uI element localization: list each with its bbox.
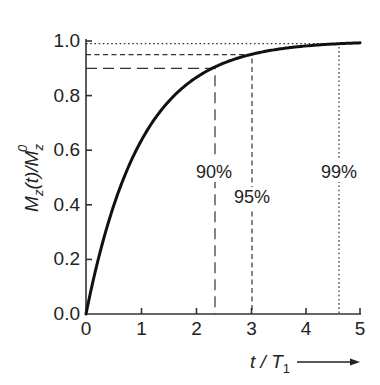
x-axis-title: t / T1 bbox=[250, 351, 290, 376]
x-tick-2: 2 bbox=[191, 318, 202, 339]
ref-line-95 bbox=[86, 55, 252, 314]
y-tick-0: 0.0 bbox=[54, 303, 80, 324]
x-tick-labels: 0 1 2 3 4 5 bbox=[81, 318, 366, 339]
label-90-percent: 90% bbox=[196, 162, 232, 182]
y-tick-0.2: 0.2 bbox=[54, 248, 80, 269]
x-tick-1: 1 bbox=[136, 318, 147, 339]
x-tick-3: 3 bbox=[246, 318, 257, 339]
y-tick-0.4: 0.4 bbox=[54, 194, 81, 215]
label-95-percent: 95% bbox=[234, 187, 270, 207]
y-tick-1.0: 1.0 bbox=[54, 30, 80, 51]
ref-line-90 bbox=[86, 68, 215, 314]
label-99-percent: 99% bbox=[321, 162, 357, 182]
y-tick-0.6: 0.6 bbox=[54, 139, 80, 160]
y-axis-title: Mz(t)/Mz0 bbox=[15, 144, 46, 212]
annotation-labels: 90% 95% 99% bbox=[193, 160, 360, 209]
x-tick-5: 5 bbox=[355, 318, 366, 339]
y-tick-0.8: 0.8 bbox=[54, 85, 80, 106]
x-tick-0: 0 bbox=[81, 318, 92, 339]
x-tick-4: 4 bbox=[301, 318, 312, 339]
x-axis-arrow-icon bbox=[297, 359, 360, 366]
y-tick-labels: 0.0 0.2 0.4 0.6 0.8 1.0 bbox=[54, 30, 81, 324]
relaxation-chart: 0.0 0.2 0.4 0.6 0.8 1.0 0 1 2 3 4 5 90% … bbox=[0, 0, 380, 385]
